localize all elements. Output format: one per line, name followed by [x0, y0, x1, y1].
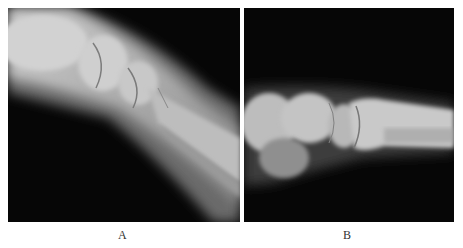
xray-image-b: [244, 8, 454, 222]
panel-label-b: B: [343, 228, 351, 243]
panel-label-a: A: [118, 228, 127, 243]
xray-image-a: [8, 8, 240, 222]
xray-panel-b: [244, 8, 454, 222]
xray-panel-a: [8, 8, 240, 222]
